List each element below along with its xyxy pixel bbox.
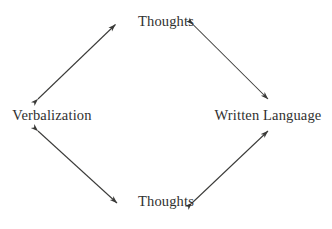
edge-thoughts-top-to-written-language — [193, 25, 268, 100]
node-thoughts-bottom: Thoughts — [138, 194, 194, 209]
node-thoughts-top: Thoughts — [138, 14, 194, 29]
node-written-language: Written Language — [215, 108, 322, 123]
edge-thoughts-bottom-to-written-language — [192, 131, 268, 203]
node-verbalization: Verbalization — [12, 108, 91, 123]
edge-verbalization-to-thoughts-bottom — [38, 131, 117, 203]
diagram-canvas: Thoughts Verbalization Written Language … — [0, 0, 332, 229]
edge-verbalization-to-thoughts-top — [38, 25, 116, 100]
